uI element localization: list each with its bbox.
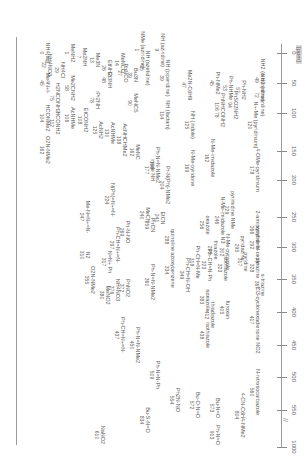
compound-name: PhNHCONH2 [219,93,225,127]
compound-label: N-Me-imidazole162 [204,139,215,178]
compound-name: N2 [84,251,90,259]
compound-name: Bu3N [132,68,138,82]
compound-label: NH (indole)125 [184,111,195,139]
axis-tick [277,247,287,248]
compound-name: Bu-O-N=O [194,392,200,418]
compound-name: isothiazole [222,255,228,281]
compound-name: isothiazole [204,322,210,348]
compound-name: HCONH2 [54,111,60,134]
compound-label: pyridine317 [237,252,248,271]
compound-label: Ph-N=N-NMe2450 [129,327,140,363]
compound-name: Me-N=N+=N- [84,201,90,234]
compound-name: Ph-NH2 [240,80,246,100]
axis-tick-label: 450 [291,340,297,350]
compound-label: Ph-CH=N-Me318 [189,245,200,278]
compound-name: Et3NH [106,72,112,88]
axis-tick-label: 500 [291,372,297,382]
compound-name: 4-OMe-pyridinium [254,148,260,192]
compound-name: AcNH2 [97,121,103,138]
compound-label: O2N-NMe2162 [39,136,50,164]
compound-name: AcNHMe [69,107,75,129]
compound-label: Me2CNH258 [64,75,75,101]
compound-name: H2NCONH2 [54,83,60,113]
compound-name: Me3N [94,53,100,68]
compound-label: NMe (aziridine)1 [134,31,145,68]
compound-label: PhNO2372 [119,279,130,297]
compound-label: MeNCS90 [127,93,138,112]
compound-name: O2N-NMe2 [44,136,50,164]
axis-tick [277,279,287,280]
compound-label: Ph-N=N-Ph509 [149,361,160,389]
compound-label: N=N+ Ph317 [101,251,112,274]
compound-name: NH (lactam) [164,100,170,129]
compound-label: Me3N13 [89,53,100,68]
axis-tick-label: 550 [291,405,297,415]
compound-name: Ph-N-NO [124,221,130,244]
compound-name: N(Ph)=N+=N- [109,183,115,217]
compound-label: MeNC162 [129,144,140,160]
compound-name: N-Me-imidazole [209,139,215,178]
axis-tick [277,180,287,181]
compound-name: Me2CNH2 [69,75,75,101]
compound-name: MeNC [134,144,140,160]
compound-label: PhNHCONH2106 78 [214,93,225,127]
compound-label: Bu-S-N=O834 [139,407,150,433]
compound-label: O2N-NMe2355 [84,266,95,294]
compound-name: Me2N-C6H9 [186,70,192,101]
axis-tick-label: 300 [291,242,297,252]
compound-label: EtCONH2108 [77,108,88,132]
compound-label: Ph-N=N-NMe2360 [144,264,155,300]
compound-name: Ph2N-NO [174,388,180,412]
compound-label: Ph-CH=N+=N-437 [114,317,125,353]
axis-tick-label: 400 [291,307,297,317]
compound-label: AcNHCHMe2138 [116,123,127,156]
compound-label: oxazole256 [199,216,210,235]
compound-label: Me2N-C6H947 [181,70,192,101]
compound-label: N(Ph)=N+=N-224 [104,183,115,217]
compound-label: quinoline288 [164,229,175,251]
compound-label: Bu-O-N=O572 [189,392,200,418]
compound-label: Bu-N=O573 [209,398,220,418]
compound-name: Pr-N(Ph)-NMe2 [164,166,170,204]
axis-tick-label: 1000 [291,440,297,453]
compound-name: furoxan [224,301,230,319]
compound-label: Me-N=N+=N-247 [79,201,90,234]
axis-tick [277,113,287,114]
axis-tick [277,151,287,152]
compound-label: Ph-N=O913 [209,425,220,445]
compound-name: AcNHMe [109,122,115,144]
compound-name: PhSO2NH2 [232,91,238,120]
compound-name: Ph-N=N-Ph [154,361,160,389]
axis-tick [277,53,287,54]
compound-name: NH (indole) [189,111,195,139]
compound-name: Ph-N=N-NMe2 [134,327,140,363]
compound-name: MeNH2 [69,44,75,63]
compound-label: azoxybenzene334 [164,252,175,287]
compound-label: N-nitrosocarbazole560 [249,369,260,415]
compound-name: EtCONH2 [82,108,88,132]
compound-label: PhCN259 [144,218,155,233]
compound-label: AcNH2125 [92,121,103,138]
compound-name: Ph-NMe2 [214,71,220,94]
compound-label: HCONH2112 [49,111,60,134]
nmr-shift-chart: 0501001502002503003504004505005501000 [p… [0,0,307,475]
compound-label: imide NH177 [144,159,155,182]
compound-label: furoxan405 [219,301,230,319]
compound-name: Ph-N=O [214,425,220,445]
axis-tick [277,447,287,448]
compound-label: NH (lactam)114 [159,100,170,129]
compound-name: EtCN [159,211,165,224]
axis-tick [277,312,287,313]
compound-label: N-Me-pyridone169 [184,150,195,186]
compound-name: NH (piperidine) [164,60,170,97]
compound-name: Bu-N=O [214,398,220,418]
axis-tick-label: 100 [291,108,297,118]
compound-name: 4-CN-C6H4-NMe2 [239,392,245,437]
compound-name: MeNCS [132,93,138,112]
compound-label: AcNHMe130 [104,122,115,144]
axis-tick-label: 250 [291,212,297,222]
compound-name: AcNHCHMe2 [121,123,127,156]
compound-name: N-Me-pyridone [189,150,195,186]
compound-name: Ph-CH=N+=N- [114,227,120,263]
compound-name: Ph-CH=N+=N- [119,317,125,353]
